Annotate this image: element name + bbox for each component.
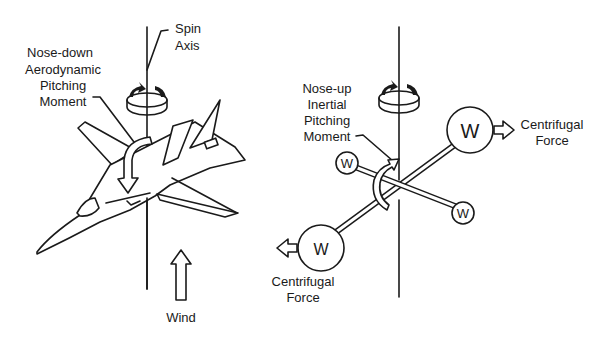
svg-text:Aerodynamic: Aerodynamic: [25, 62, 101, 77]
svg-text:Moment: Moment: [40, 94, 87, 109]
centrifugal-arrow-right-icon: [494, 121, 514, 139]
centrifugal-arrow-left-icon: [277, 239, 297, 257]
svg-text:W: W: [461, 120, 480, 142]
centrifugal-right-label-line1: Centrifugal: [521, 117, 584, 132]
spin-diagram: Spin Axis Nose-down Aerodynamic Pitching…: [0, 0, 608, 337]
spin-axis-leader: [147, 30, 168, 70]
svg-text:W: W: [313, 241, 329, 258]
wind-label: Wind: [166, 310, 196, 325]
centrifugal-left-label-line1: Centrifugal: [272, 274, 335, 289]
left-panel: Spin Axis Nose-down Aerodynamic Pitching…: [25, 21, 245, 325]
centrifugal-left-label-line2: Force: [286, 290, 319, 305]
weight-mass-small-top-left: W: [336, 152, 358, 174]
spin-axis-label-line1: Spin: [175, 21, 201, 36]
aircraft-icon: [37, 100, 245, 254]
wind-arrow-icon: [171, 250, 191, 300]
right-panel: Nose-up Inertial Pitching Moment W W: [272, 27, 584, 305]
centrifugal-right-label-line2: Force: [535, 133, 568, 148]
svg-text:W: W: [457, 206, 470, 221]
weight-mass-top-right: W: [447, 107, 493, 153]
svg-text:W: W: [341, 156, 354, 171]
svg-text:Pitching: Pitching: [304, 113, 350, 128]
svg-text:Pitching: Pitching: [40, 78, 86, 93]
nose-down-label: Nose-down Aerodynamic Pitching Moment: [25, 45, 101, 109]
short-rod: [355, 167, 460, 208]
weight-mass-small-bottom-right: W: [452, 202, 474, 224]
spin-axis-label-line2: Axis: [175, 38, 200, 53]
svg-text:Nose-down: Nose-down: [27, 45, 93, 60]
svg-text:Moment: Moment: [304, 129, 351, 144]
svg-text:Nose-up: Nose-up: [302, 81, 351, 96]
nose-up-label: Nose-up Inertial Pitching Moment: [302, 81, 351, 144]
svg-text:Inertial: Inertial: [307, 97, 346, 112]
nose-up-leader: [356, 135, 393, 161]
weight-mass-bottom-left: W: [298, 225, 344, 271]
